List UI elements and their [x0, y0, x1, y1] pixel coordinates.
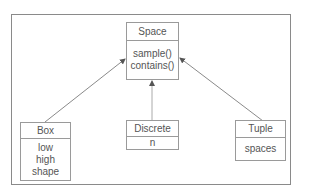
- class-box: Box low high shape: [20, 122, 71, 181]
- arrow-tuple-to-space: [180, 58, 263, 121]
- class-box-name: Box: [21, 123, 70, 139]
- class-tuple-members: spaces: [236, 138, 285, 160]
- member-n: n: [150, 137, 156, 149]
- member-low: low: [38, 142, 53, 154]
- member-high: high: [36, 154, 55, 166]
- class-box-members: low high shape: [21, 139, 70, 180]
- class-tuple: Tuple spaces: [235, 120, 286, 161]
- class-space-members: sample() contains(): [127, 41, 178, 79]
- member-shape: shape: [32, 166, 59, 178]
- class-discrete-members: n: [127, 137, 178, 149]
- arrow-box-to-space: [45, 59, 125, 122]
- class-tuple-name: Tuple: [236, 121, 285, 138]
- class-discrete: Discrete n: [126, 120, 179, 150]
- class-space: Space sample() contains(): [126, 22, 179, 80]
- member-spaces: spaces: [245, 143, 277, 155]
- class-space-name: Space: [127, 23, 178, 41]
- class-discrete-name: Discrete: [127, 121, 178, 137]
- member-contains: contains(): [131, 60, 175, 72]
- member-sample: sample(): [133, 48, 172, 60]
